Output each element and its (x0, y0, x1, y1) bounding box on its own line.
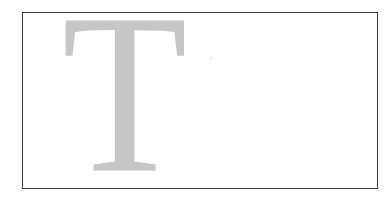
scan-speck (210, 58, 212, 59)
drop-cap-letter: T (62, 0, 187, 201)
bordered-figure-frame: T (22, 12, 378, 189)
